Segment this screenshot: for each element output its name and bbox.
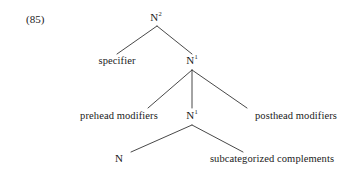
- node-n1-upper-superscript: 1: [194, 53, 197, 60]
- node-specifier: specifier: [98, 56, 135, 67]
- node-n1-lower-superscript: 1: [194, 108, 197, 115]
- branch-root-to-specifier: [117, 26, 157, 54]
- node-n2-letter: N: [150, 11, 158, 23]
- tree-branch-lines: [0, 0, 351, 172]
- branch-nbar_upper-to-prehead_modifiers: [148, 70, 192, 108]
- node-n1-lower: N1: [186, 110, 198, 121]
- node-n2-root: N2: [150, 12, 162, 23]
- node-n1-lower-letter: N: [186, 109, 194, 121]
- node-n-head: N: [115, 153, 123, 164]
- node-subcategorized-complements: subcategorized complements: [210, 154, 334, 165]
- node-prehead-modifiers: prehead modifiers: [80, 111, 158, 122]
- branch-nbar_lower-to-subcategorized_complements: [192, 125, 243, 152]
- node-n2-superscript: 2: [158, 10, 161, 17]
- syntax-tree-diagram: (85) N2 specifier N1 prehead modifiers N…: [0, 0, 351, 172]
- node-n1-upper: N1: [186, 55, 198, 66]
- node-n-head-letter: N: [115, 152, 123, 164]
- node-posthead-modifiers: posthead modifiers: [255, 111, 337, 122]
- branch-nbar_upper-to-posthead_modifiers: [192, 70, 247, 108]
- example-number: (85): [26, 14, 44, 25]
- branch-root-to-nbar_upper: [157, 26, 192, 54]
- node-n1-upper-letter: N: [186, 54, 194, 66]
- branch-nbar_lower-to-head_noun: [131, 125, 192, 152]
